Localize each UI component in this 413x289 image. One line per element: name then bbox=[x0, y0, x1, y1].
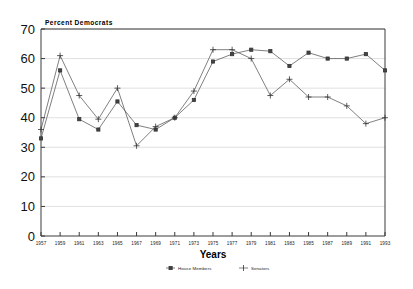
x-tick-label: 1969 bbox=[150, 241, 161, 246]
data-point-marker-square bbox=[78, 118, 81, 121]
x-tick-label: 1985 bbox=[303, 241, 314, 246]
x-tick-label: 1971 bbox=[169, 241, 180, 246]
data-point-marker-square bbox=[250, 48, 253, 51]
data-point-marker-plus bbox=[114, 85, 120, 91]
legend-item-senators[interactable]: Senators bbox=[239, 265, 270, 271]
x-tick-label: 1957 bbox=[36, 241, 47, 246]
x-tick-label: 1989 bbox=[341, 241, 352, 246]
x-tick-label: 1975 bbox=[208, 241, 219, 246]
x-axis-ticks: 1957195919611963196519671969197119731975… bbox=[36, 232, 391, 246]
data-point-marker-plus bbox=[382, 115, 388, 121]
x-tick-label: 1981 bbox=[265, 241, 276, 246]
legend-label: Senators bbox=[251, 266, 270, 271]
chart-title: Percent Democrats bbox=[45, 19, 113, 26]
x-tick-label: 1963 bbox=[93, 241, 104, 246]
data-point-marker-square bbox=[192, 98, 195, 101]
data-point-marker-square bbox=[288, 64, 291, 67]
y-tick-label: 60 bbox=[21, 51, 35, 66]
x-tick-label: 1991 bbox=[361, 241, 372, 246]
data-point-marker-square bbox=[269, 50, 272, 53]
legend-label: House Members bbox=[178, 266, 212, 271]
data-point-marker-square bbox=[231, 53, 234, 56]
chart-legend: House MembersSenators bbox=[166, 265, 270, 271]
y-tick-label: 30 bbox=[21, 140, 35, 155]
x-tick-label: 1965 bbox=[112, 241, 123, 246]
data-point-marker-square bbox=[135, 124, 138, 127]
data-point-marker-square bbox=[345, 57, 348, 60]
legend-marker-square bbox=[169, 266, 172, 269]
x-tick-label: 1959 bbox=[55, 241, 66, 246]
data-point-marker-square bbox=[97, 128, 100, 131]
data-point-marker-square bbox=[326, 57, 329, 60]
data-point-marker-square bbox=[116, 100, 119, 103]
x-tick-label: 1987 bbox=[322, 241, 333, 246]
series-house-members bbox=[39, 48, 386, 140]
data-point-marker-plus bbox=[210, 47, 216, 53]
data-point-marker-square bbox=[39, 137, 42, 140]
data-point-marker-square bbox=[364, 53, 367, 56]
chart-container: 0102030405060701957195919611963196519671… bbox=[0, 0, 413, 289]
y-tick-label: 40 bbox=[21, 110, 35, 125]
data-point-marker-plus bbox=[191, 88, 197, 94]
legend-item-house-members[interactable]: House Members bbox=[166, 266, 212, 271]
x-tick-label: 1983 bbox=[284, 241, 295, 246]
data-point-marker-square bbox=[383, 69, 386, 72]
data-point-marker-plus bbox=[248, 56, 254, 62]
data-point-marker-plus bbox=[325, 94, 331, 100]
y-tick-label: 70 bbox=[21, 22, 35, 37]
data-point-marker-plus bbox=[229, 47, 235, 53]
y-tick-label: 10 bbox=[21, 199, 35, 214]
y-tick-label: 20 bbox=[21, 169, 35, 184]
data-point-marker-square bbox=[211, 60, 214, 63]
x-tick-label: 1961 bbox=[74, 241, 85, 246]
data-point-marker-plus bbox=[57, 53, 63, 59]
percent-democrats-line-chart: 0102030405060701957195919611963196519671… bbox=[0, 0, 413, 289]
y-tick-label: 50 bbox=[21, 81, 35, 96]
x-tick-label: 1979 bbox=[246, 241, 257, 246]
x-tick-label: 1967 bbox=[131, 241, 142, 246]
data-point-marker-square bbox=[59, 69, 62, 72]
x-tick-label: 1977 bbox=[227, 241, 238, 246]
data-point-marker-square bbox=[307, 51, 310, 54]
y-tick-label: 0 bbox=[28, 229, 35, 244]
x-tick-label: 1993 bbox=[380, 241, 391, 246]
x-tick-label: 1973 bbox=[189, 241, 200, 246]
series-polyline bbox=[41, 50, 385, 146]
gridlines-group bbox=[41, 29, 385, 206]
x-axis-title: Years bbox=[200, 249, 227, 260]
